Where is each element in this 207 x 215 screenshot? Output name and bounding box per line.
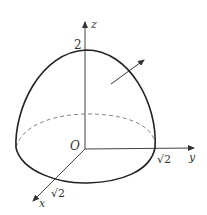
x-tick-sqrt2: √2 xyxy=(51,187,65,200)
z-axis-label: z xyxy=(90,18,97,31)
z-tick-2: 2 xyxy=(74,38,82,52)
normal-arrow xyxy=(111,60,144,84)
x-axis-label: x xyxy=(39,197,46,210)
paraboloid-diagram: z 2 O √2 y √2 x xyxy=(0,0,207,215)
dome-outline xyxy=(16,50,155,148)
origin-label: O xyxy=(70,139,80,153)
y-axis-label: y xyxy=(188,151,196,164)
y-axis xyxy=(85,148,194,149)
base-front-curve xyxy=(16,148,155,183)
y-tick-sqrt2: √2 xyxy=(157,153,171,166)
